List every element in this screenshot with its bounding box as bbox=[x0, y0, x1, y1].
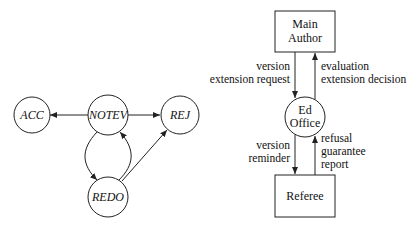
label-author-to-office-line1: version bbox=[256, 60, 290, 72]
node-notev: NOTEV bbox=[88, 95, 129, 135]
state-diagram: ACC NOTEV REJ REDO bbox=[14, 95, 199, 217]
label-office-to-referee-line2: reminder bbox=[248, 152, 290, 164]
label-office-to-author-line2: extension decision bbox=[321, 73, 407, 85]
node-acc-label: ACC bbox=[19, 108, 44, 122]
ed-office-node: Ed Office bbox=[285, 97, 325, 137]
ed-office-label-line2: Office bbox=[290, 116, 320, 130]
label-referee-to-office-line2: guarantee bbox=[321, 145, 366, 158]
node-notev-label: NOTEV bbox=[88, 108, 129, 122]
node-rej: REJ bbox=[161, 96, 199, 134]
referee-box: Referee bbox=[275, 175, 335, 217]
node-rej-label: REJ bbox=[169, 108, 191, 122]
label-referee-to-office-line1: refusal bbox=[321, 132, 352, 144]
label-author-to-office-line2: extension request bbox=[210, 73, 291, 86]
referee-label: Referee bbox=[286, 189, 323, 203]
node-redo: REDO bbox=[88, 177, 128, 217]
label-referee-to-office-line3: report bbox=[321, 158, 349, 171]
flow-diagram: Main Author Ed Office Referee version ex… bbox=[210, 11, 407, 217]
main-author-label-line1: Main bbox=[292, 17, 317, 31]
edge-notev-redo bbox=[85, 132, 97, 180]
diagram-canvas: ACC NOTEV REJ REDO Main Author Ed Office bbox=[0, 0, 417, 232]
ed-office-label-line1: Ed bbox=[298, 103, 311, 117]
main-author-label-line2: Author bbox=[288, 31, 322, 45]
main-author-box: Main Author bbox=[275, 11, 335, 52]
label-office-to-author-line1: evaluation bbox=[321, 60, 369, 72]
node-acc: ACC bbox=[14, 97, 50, 133]
node-redo-label: REDO bbox=[91, 190, 124, 204]
edge-redo-rej bbox=[122, 130, 167, 181]
label-office-to-referee-line1: version bbox=[256, 139, 290, 151]
